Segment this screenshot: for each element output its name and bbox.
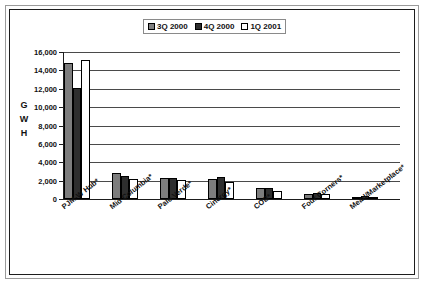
legend-item-0: 3Q 2000 [148,22,188,31]
legend-swatch-icon [195,23,202,30]
legend-label: 3Q 2000 [157,22,188,31]
y-axis-tick-label: 4,000 [38,158,57,167]
bar [73,88,82,199]
legend-label: 1Q 2001 [250,22,281,31]
chart-legend: 3Q 20004Q 20001Q 2001 [143,19,286,34]
y-axis-tick-label: 2,000 [38,176,57,185]
bar-group [64,52,112,199]
legend-label: 4Q 2000 [204,22,235,31]
y-axis-tick-label: 12,000 [34,84,57,93]
y-axis-tick-label: 8,000 [38,121,57,130]
legend-swatch-icon [148,23,155,30]
y-axis-tick-labels: 16,00014,00012,00010,0008,0006,0004,0002… [0,0,57,284]
y-axis-tick-label: 10,000 [34,103,57,112]
bar-group [208,52,256,199]
bar [273,191,282,199]
bar-group [304,52,352,199]
y-axis-tick-label: 0 [53,195,57,204]
legend-item-2: 1Q 2001 [241,22,281,31]
bar [64,63,73,199]
legend-swatch-icon [241,23,248,30]
y-axis-tick-label: 14,000 [34,66,57,75]
bar-group [160,52,208,199]
y-axis-tick-label: 6,000 [38,139,57,148]
x-axis-category-labels: PJM-W Hub*Mid Columbia*Palo Verde*Cinerg… [64,200,400,280]
bar-group [256,52,304,199]
chart-figure: 3Q 20004Q 20001Q 2001 GWH 16,00014,00012… [0,0,424,284]
y-axis-tick-label: 16,000 [34,48,57,57]
bar [81,60,90,199]
bar-groups [64,52,400,199]
legend-item-1: 4Q 2000 [195,22,235,31]
